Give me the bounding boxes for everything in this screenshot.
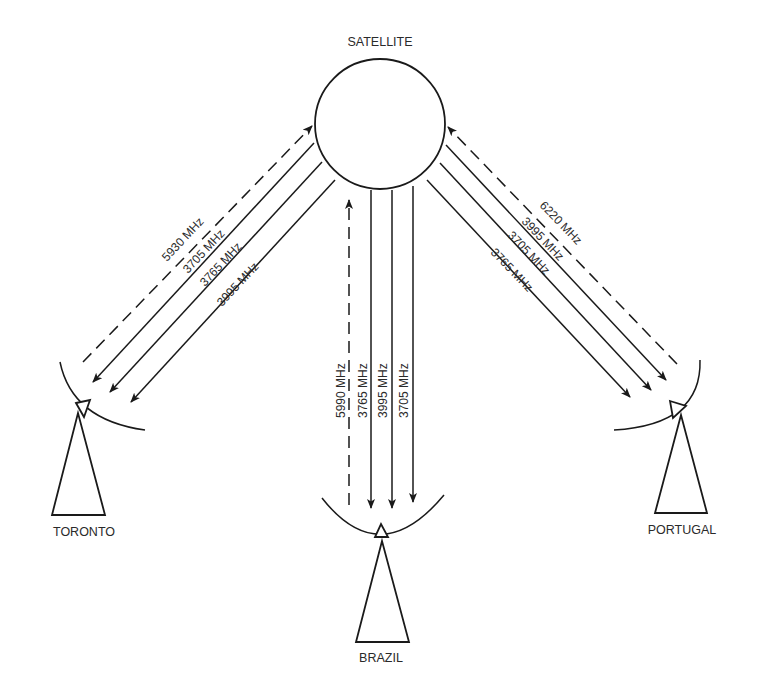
portugal-station: PORTUGAL (614, 360, 716, 537)
toronto-links: 5930 MHz 3705 MHz 3765 MHz 3995 MHz (83, 126, 335, 402)
satellite-label: SATELLITE (347, 35, 412, 49)
brazil-station: BRAZIL (322, 495, 444, 665)
brazil-downlink-freq-3: 3705 MHz (397, 363, 411, 418)
brazil-uplink-freq: 5990 MHz (334, 363, 348, 418)
brazil-downlink-freq-1: 3765 MHz (356, 363, 370, 418)
satellite-circle (315, 59, 445, 189)
toronto-downlink-arrow-1 (93, 143, 314, 382)
portugal-label: PORTUGAL (648, 523, 717, 537)
satellite: SATELLITE (315, 35, 445, 189)
brazil-feed (375, 524, 388, 537)
portugal-links: 6220 MHz 3995 MHz 3705 MHz 3765 MHz (427, 127, 677, 397)
toronto-antenna-base (52, 413, 105, 515)
brazil-antenna-base (356, 541, 409, 642)
toronto-station: TORONTO (52, 362, 145, 539)
portugal-downlink-arrow-2 (440, 163, 651, 390)
portugal-uplink-arrow (448, 127, 677, 364)
toronto-label: TORONTO (53, 525, 115, 539)
brazil-links: 5990 MHz 3765 MHz 3995 MHz 3705 MHz (334, 186, 413, 508)
portugal-antenna-base (655, 415, 707, 513)
brazil-label: BRAZIL (359, 651, 403, 665)
portugal-feed (670, 401, 686, 418)
brazil-downlink-freq-2: 3995 MHz (376, 363, 390, 418)
satellite-diagram: SATELLITE 5930 MHz 3705 MHz 3765 MHz 399… (0, 0, 760, 699)
toronto-uplink-arrow (83, 126, 312, 362)
